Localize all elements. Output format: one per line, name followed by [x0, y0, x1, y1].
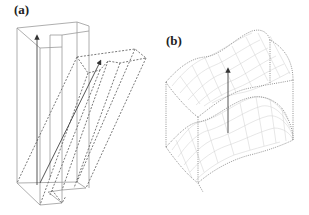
- dashed-prism: [17, 49, 146, 205]
- panel-b-diagram: [166, 30, 293, 192]
- panel-a-diagram: [17, 22, 146, 205]
- solid-prism: [17, 22, 89, 205]
- diagonal-arrow-icon: [40, 62, 100, 183]
- figure-canvas: [0, 0, 309, 215]
- lower-surface: [166, 97, 293, 192]
- upper-surface: [166, 30, 293, 117]
